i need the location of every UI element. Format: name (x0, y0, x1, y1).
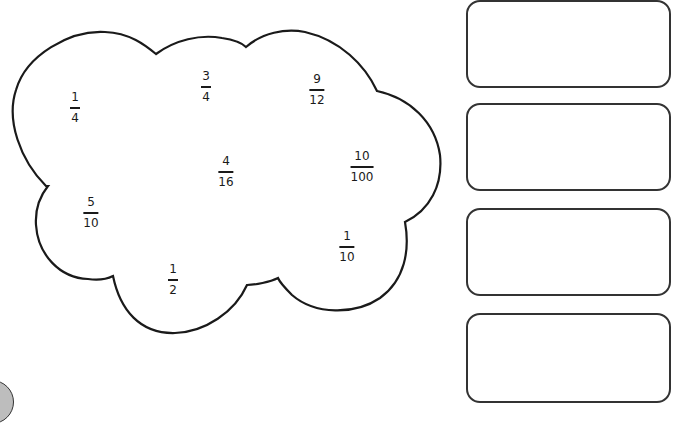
answer-box-4[interactable] (466, 313, 671, 403)
fraction-nine-twelfths: 9 12 (309, 73, 324, 107)
fraction-three-quarters: 3 4 (201, 70, 211, 104)
denominator: 12 (309, 94, 324, 107)
numerator: 10 (354, 150, 369, 163)
numerator: 1 (169, 263, 177, 276)
numerator: 3 (202, 70, 210, 83)
denominator: 16 (218, 176, 233, 189)
answer-box-2[interactable] (466, 103, 671, 191)
fraction-bar (83, 212, 98, 214)
fraction-four-sixteenths: 4 16 (218, 155, 233, 189)
fraction-bar (218, 171, 233, 173)
fraction-one-tenth: 1 10 (339, 230, 354, 264)
denominator: 10 (339, 251, 354, 264)
numerator: 1 (343, 230, 351, 243)
denominator: 4 (71, 112, 79, 125)
cloud-shape (0, 0, 450, 403)
fraction-one-half: 1 2 (168, 263, 178, 297)
fraction-bar (70, 107, 80, 109)
fraction-bar (351, 166, 374, 168)
fraction-bar (168, 279, 178, 281)
fraction-bar (201, 86, 211, 88)
denominator: 2 (169, 284, 177, 297)
fraction-bar (339, 246, 354, 248)
numerator: 1 (71, 91, 79, 104)
fraction-one-quarter: 1 4 (70, 91, 80, 125)
denominator: 10 (83, 217, 98, 230)
numerator: 4 (222, 155, 230, 168)
denominator: 100 (351, 171, 374, 184)
answer-box-3[interactable] (466, 208, 671, 296)
denominator: 4 (202, 91, 210, 104)
fraction-bar (309, 89, 324, 91)
numerator: 5 (87, 196, 95, 209)
answer-box-1[interactable] (466, 0, 671, 88)
fraction-ten-hundredths: 10 100 (351, 150, 374, 184)
numerator: 9 (313, 73, 321, 86)
fraction-five-tenths: 5 10 (83, 196, 98, 230)
